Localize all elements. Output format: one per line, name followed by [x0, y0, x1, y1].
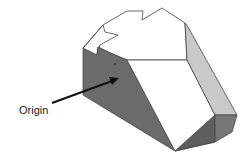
solid-diagram — [0, 0, 246, 161]
origin-label: Origin — [19, 104, 48, 116]
origin-marker — [114, 63, 116, 65]
bottom-face-b — [215, 115, 237, 142]
